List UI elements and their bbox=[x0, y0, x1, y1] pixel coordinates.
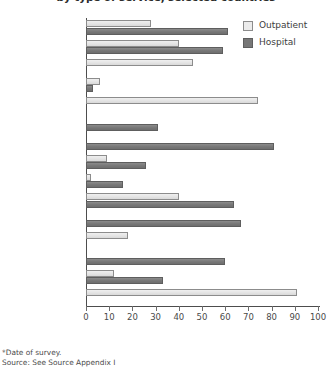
legend-label-hospital: Hospital bbox=[259, 37, 296, 47]
chart-row: Kazakhstan (1999)* bbox=[86, 133, 320, 152]
x-tick-80 bbox=[272, 306, 273, 311]
bar-hospital bbox=[86, 220, 241, 227]
bar-outpatient bbox=[86, 174, 91, 181]
bar-hospital bbox=[86, 28, 228, 35]
chart-row: Romania (2000) bbox=[86, 210, 320, 229]
x-tick-label-30: 30 bbox=[150, 312, 161, 322]
x-tick-label-50: 50 bbox=[197, 312, 208, 322]
bar-outpatient bbox=[86, 232, 128, 239]
footnote-date-of-survey: *Date of survey. bbox=[2, 348, 302, 358]
bar-hospital bbox=[86, 201, 234, 208]
chart-row: Tajikistan (1999) bbox=[86, 268, 320, 287]
x-tick-label-10: 10 bbox=[104, 312, 115, 322]
x-tick-60 bbox=[225, 306, 226, 311]
x-tick-30 bbox=[156, 306, 157, 311]
bar-hospital bbox=[86, 124, 158, 131]
x-tick-50 bbox=[202, 306, 203, 311]
chart-row: Slovakia (2000) bbox=[86, 248, 320, 267]
footnote-source: Source: See Source Appendix I bbox=[2, 358, 302, 368]
bar-hospital bbox=[86, 47, 223, 54]
x-tick-10 bbox=[109, 306, 110, 311]
x-tick-label-80: 80 bbox=[266, 312, 277, 322]
bar-hospital bbox=[86, 181, 123, 188]
x-tick-label-70: 70 bbox=[243, 312, 254, 322]
bar-hospital bbox=[86, 277, 163, 284]
x-tick-20 bbox=[132, 306, 133, 311]
bar-hospital bbox=[86, 85, 93, 92]
chart-row: Uganda (2003) bbox=[86, 287, 320, 306]
x-tick-label-0: 0 bbox=[83, 312, 88, 322]
chart-row: Bangladesh (2002) bbox=[86, 56, 320, 75]
x-tick-label-60: 60 bbox=[220, 312, 231, 322]
bar-hospital bbox=[86, 258, 225, 265]
chart-title: by type of service, selected countries bbox=[0, 0, 332, 3]
legend-label-outpatient: Outpatient bbox=[259, 20, 307, 30]
bar-outpatient bbox=[86, 78, 100, 85]
hospital-swatch-icon bbox=[243, 38, 253, 48]
bar-hospital bbox=[86, 143, 274, 150]
x-axis-line bbox=[86, 306, 320, 307]
chart-row: Poland (2002) bbox=[86, 191, 320, 210]
bar-outpatient bbox=[86, 289, 297, 296]
bar-hospital bbox=[86, 162, 146, 169]
x-tick-label-100: 100 bbox=[310, 312, 326, 322]
chart-row: Kosovo (2000) bbox=[86, 172, 320, 191]
x-tick-label-20: 20 bbox=[127, 312, 138, 322]
bar-outpatient bbox=[86, 97, 258, 104]
x-tick-100 bbox=[318, 306, 319, 311]
chart-row: China (n.d.) bbox=[86, 95, 320, 114]
bar-outpatient bbox=[86, 40, 179, 47]
chart-footnotes: *Date of survey. Source: See Source Appe… bbox=[2, 348, 302, 368]
chart-row: Russia (2002) bbox=[86, 229, 320, 248]
chart-row: Bulgaria (2001) bbox=[86, 76, 320, 95]
x-tick-label-90: 90 bbox=[289, 312, 300, 322]
x-tick-label-40: 40 bbox=[173, 312, 184, 322]
bar-outpatient bbox=[86, 59, 193, 66]
bar-outpatient bbox=[86, 155, 107, 162]
chart-row: Kazakhstan (2001) bbox=[86, 152, 320, 171]
x-tick-70 bbox=[248, 306, 249, 311]
x-tick-0 bbox=[86, 306, 87, 311]
outpatient-swatch-icon bbox=[243, 21, 253, 31]
bar-chart: by type of service, selected countries 0… bbox=[0, 0, 332, 379]
x-tick-90 bbox=[295, 306, 296, 311]
bar-outpatient bbox=[86, 270, 114, 277]
bar-outpatient bbox=[86, 193, 179, 200]
chart-row: Ghana (2000) bbox=[86, 114, 320, 133]
bar-outpatient bbox=[86, 20, 151, 27]
x-tick-40 bbox=[179, 306, 180, 311]
